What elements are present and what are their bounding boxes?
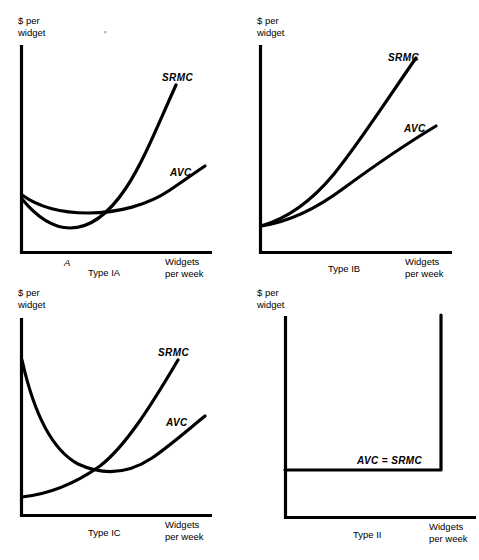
- chart-type-1c: $ per widget SRMC AVC Widgets per week T…: [0, 278, 240, 560]
- curve-label-avc-equals-srmc: AVC = SRMC: [356, 455, 423, 466]
- y-axis-label-line1: $ per: [257, 287, 279, 298]
- x-axis-label-line1: Widgets: [165, 256, 200, 267]
- curve-label-avc: AVC: [165, 417, 188, 428]
- curve-label-srmc: SRMC: [158, 347, 189, 358]
- panel-title-type-1c: Type IC: [88, 527, 121, 538]
- chart-type-1b: $ per widget SRMC AVC Widgets per week T…: [240, 0, 479, 280]
- y-axis-label-line2: widget: [17, 27, 46, 38]
- chart-type-1a: $ per widget SRMC AVC A Widgets per week…: [0, 0, 240, 280]
- panel-title-type-2: Type II: [353, 529, 382, 540]
- y-axis-label-line2: widget: [256, 27, 285, 38]
- curve-srmc: [261, 58, 416, 226]
- x-axis-label-line2: per week: [165, 531, 204, 542]
- y-axis-label-line1: $ per: [18, 287, 40, 298]
- curve-avc: [261, 126, 436, 226]
- x-axis-label-line1: Widgets: [429, 521, 464, 532]
- panel-title-type-1b: Type IB: [328, 263, 360, 274]
- y-axis-label-line1: $ per: [18, 15, 40, 26]
- scan-speck: [104, 31, 107, 34]
- x-axis-label-line2: per week: [429, 533, 468, 544]
- curve-label-avc: AVC: [169, 167, 192, 178]
- panel-type-1c: $ per widget SRMC AVC Widgets per week T…: [0, 278, 240, 560]
- panel-type-1a: $ per widget SRMC AVC A Widgets per week…: [0, 0, 240, 280]
- curve-avc-equals-srmc: [285, 315, 441, 470]
- panel-type-1b: $ per widget SRMC AVC Widgets per week T…: [240, 0, 479, 280]
- panel-type-2: $ per widget AVC = SRMC Widgets per week…: [240, 278, 479, 560]
- curve-label-avc: AVC: [403, 123, 426, 134]
- point-label-a: A: [63, 257, 70, 268]
- curve-label-srmc: SRMC: [388, 52, 419, 63]
- x-axis-label-line1: Widgets: [405, 256, 440, 267]
- panel-title-type-1a: Type IA: [88, 267, 121, 278]
- x-axis-label-line1: Widgets: [165, 519, 200, 530]
- y-axis-label-line1: $ per: [257, 15, 279, 26]
- curve-label-srmc: SRMC: [162, 72, 193, 83]
- y-axis-label-line2: widget: [256, 299, 285, 310]
- chart-type-2: $ per widget AVC = SRMC Widgets per week…: [240, 278, 479, 560]
- y-axis-label-line2: widget: [17, 299, 46, 310]
